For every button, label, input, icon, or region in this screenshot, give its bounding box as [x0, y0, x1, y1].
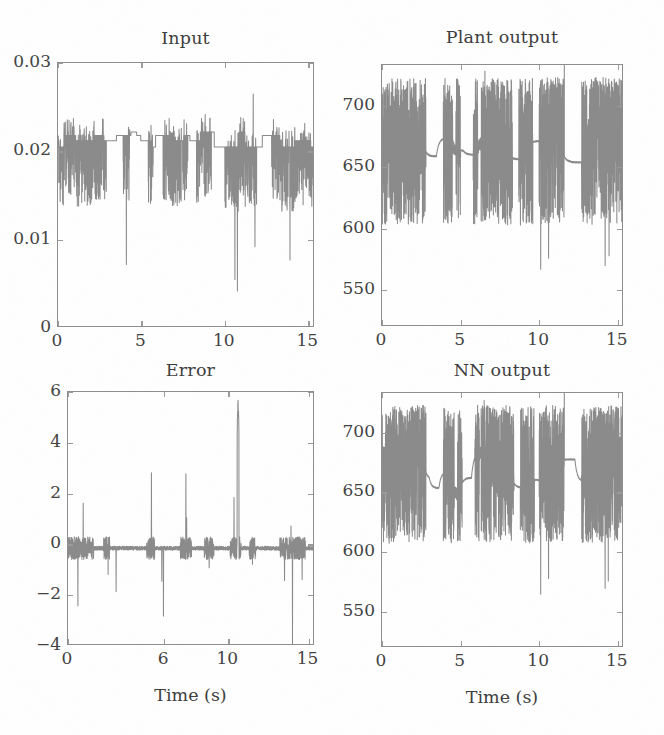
- ytick-label-plant_output-3: 700: [0, 96, 375, 113]
- subplot-title-input: Input: [57, 28, 314, 48]
- xtick-mark-error: [68, 639, 69, 644]
- xtick-label-input-1: 5: [110, 332, 170, 349]
- ytick-mark-right-nn_output: [617, 433, 622, 434]
- subplot-title-error: Error: [67, 360, 314, 380]
- xtick-mark-input: [141, 321, 142, 326]
- ytick-mark-error: [68, 392, 73, 393]
- xtick-mark-top-nn_output: [539, 393, 540, 398]
- ytick-label-plant_output-0: 550: [0, 280, 375, 297]
- xtick-label-error-0: 0: [37, 650, 97, 667]
- ytick-mark-right-error: [308, 443, 313, 444]
- xtick-mark-top-nn_output: [461, 393, 462, 398]
- ytick-mark-right-input: [308, 240, 313, 241]
- xtick-mark-error: [309, 639, 310, 644]
- ytick-mark-right-plant_output: [617, 229, 622, 230]
- ytick-mark-input: [58, 63, 63, 64]
- ytick-mark-nn_output: [382, 433, 387, 434]
- xtick-mark-error: [228, 639, 229, 644]
- ytick-label-nn_output-1: 600: [0, 542, 375, 559]
- plot-area-nn_output: [382, 393, 623, 647]
- ytick-mark-right-plant_output: [617, 106, 622, 107]
- xtick-label-nn_output-3: 15: [587, 652, 647, 669]
- xtick-mark-nn_output: [382, 641, 383, 646]
- xtick-mark-input: [58, 321, 59, 326]
- ytick-mark-right-input: [308, 63, 313, 64]
- xtick-mark-plant_output: [539, 320, 540, 325]
- xtick-label-plant_output-3: 15: [587, 331, 647, 348]
- xaxis-label-error: Time (s): [67, 685, 314, 705]
- data-trace-input: [58, 94, 314, 291]
- ytick-mark-error: [68, 443, 73, 444]
- ytick-label-nn_output-0: 550: [0, 602, 375, 619]
- xtick-mark-top-error: [164, 392, 165, 397]
- ytick-mark-right-nn_output: [617, 492, 622, 493]
- ytick-mark-right-error: [308, 595, 313, 596]
- ytick-label-nn_output-2: 650: [0, 482, 375, 499]
- ytick-mark-input: [58, 240, 63, 241]
- xtick-mark-top-plant_output: [539, 65, 540, 70]
- xtick-label-input-0: 0: [27, 332, 87, 349]
- xtick-mark-input: [308, 321, 309, 326]
- xtick-label-plant_output-0: 0: [351, 331, 411, 348]
- ytick-mark-right-nn_output: [617, 552, 622, 553]
- xtick-mark-top-nn_output: [618, 393, 619, 398]
- subplot-title-plant-output: Plant output: [381, 27, 623, 47]
- ytick-label-input-3: 0.03: [0, 53, 51, 70]
- xtick-label-plant_output-2: 10: [508, 331, 568, 348]
- xtick-mark-nn_output: [539, 641, 540, 646]
- xtick-mark-plant_output: [382, 320, 383, 325]
- ytick-mark-right-nn_output: [617, 612, 622, 613]
- data-trace-plant_output: [382, 65, 623, 269]
- xtick-mark-nn_output: [618, 641, 619, 646]
- xtick-label-nn_output-0: 0: [351, 652, 411, 669]
- ytick-mark-right-plant_output: [617, 167, 622, 168]
- xtick-mark-plant_output: [618, 320, 619, 325]
- ytick-mark-right-error: [308, 392, 313, 393]
- ytick-label-input-2: 0.02: [0, 141, 51, 158]
- axes-frame-plant-output: [381, 64, 623, 326]
- ytick-mark-nn_output: [382, 492, 387, 493]
- ytick-mark-nn_output: [382, 612, 387, 613]
- ytick-label-plant_output-1: 600: [0, 219, 375, 236]
- xtick-mark-input: [225, 321, 226, 326]
- xtick-mark-error: [164, 639, 165, 644]
- xtick-mark-top-error: [228, 392, 229, 397]
- ytick-mark-right-input: [308, 151, 313, 152]
- xaxis-label-nn-output: Time (s): [381, 687, 623, 707]
- data-trace-nn_output: [382, 393, 623, 594]
- xtick-label-input-3: 15: [277, 332, 337, 349]
- ytick-mark-error: [68, 595, 73, 596]
- xtick-mark-top-plant_output: [461, 65, 462, 70]
- ytick-mark-input: [58, 151, 63, 152]
- subplot-title-nn-output: NN output: [381, 360, 623, 380]
- ytick-label-plant_output-2: 650: [0, 157, 375, 174]
- xtick-label-error-1: 6: [133, 650, 193, 667]
- xtick-label-nn_output-2: 10: [508, 652, 568, 669]
- figure-canvas: Input Plant output Error Time (s) NN out…: [0, 0, 664, 735]
- ytick-mark-plant_output: [382, 167, 387, 168]
- xtick-mark-top-input: [141, 63, 142, 68]
- xtick-label-error-2: 10: [197, 650, 257, 667]
- xtick-label-nn_output-1: 5: [430, 652, 490, 669]
- ytick-mark-plant_output: [382, 106, 387, 107]
- ytick-mark-right-plant_output: [617, 290, 622, 291]
- xtick-mark-top-plant_output: [382, 65, 383, 70]
- ytick-mark-plant_output: [382, 290, 387, 291]
- plot-area-plant_output: [382, 65, 623, 326]
- ytick-label-error-5: 6: [0, 382, 61, 399]
- xtick-mark-top-nn_output: [382, 393, 383, 398]
- xtick-mark-nn_output: [461, 641, 462, 646]
- ytick-mark-plant_output: [382, 229, 387, 230]
- xtick-mark-top-plant_output: [618, 65, 619, 70]
- ytick-mark-nn_output: [382, 552, 387, 553]
- xtick-label-error-3: 15: [278, 650, 338, 667]
- ytick-label-nn_output-3: 700: [0, 423, 375, 440]
- xtick-label-input-2: 10: [194, 332, 254, 349]
- xtick-mark-top-input: [225, 63, 226, 68]
- axes-frame-nn-output: [381, 392, 623, 647]
- ytick-label-error-1: −2: [0, 585, 61, 602]
- xtick-mark-plant_output: [461, 320, 462, 325]
- xtick-label-plant_output-1: 5: [430, 331, 490, 348]
